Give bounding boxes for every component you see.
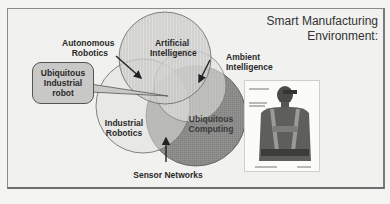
title-line-1: Smart Manufacturing (267, 14, 378, 29)
label-line: Artificial (150, 38, 194, 48)
page-title: Smart Manufacturing Environment: (267, 14, 378, 44)
label-artificial-intelligence: Artificial Intelligence (150, 38, 194, 58)
label-line: Robotics (62, 48, 112, 58)
label-line: Intelligence (226, 62, 276, 72)
label-line: Intelligence (150, 48, 194, 58)
callout-ubiquitous-industrial-robot: Ubiquitous Industrial robot (32, 62, 94, 104)
label-ambient-intelligence: Ambient Intelligence (226, 52, 276, 72)
label-autonomous-robotics: Autonomous Robotics (62, 38, 112, 58)
callout-line: robot (52, 88, 74, 98)
label-line: Robotics (102, 128, 146, 138)
label-line: Ubiquitous (186, 114, 236, 124)
label-line: Autonomous (62, 38, 112, 48)
label-sensor-networks: Sensor Networks (128, 170, 208, 180)
callout-line: Industrial (44, 78, 82, 88)
wearable-person-icon (245, 81, 319, 171)
title-line-2: Environment: (267, 29, 378, 44)
label-line: Ambient (226, 52, 276, 62)
label-industrial-robotics: Industrial Robotics (102, 118, 146, 138)
callout-line: Ubiquitous (41, 68, 85, 78)
label-ubiquitous-computing: Ubiquitous Computing (186, 114, 236, 134)
wearable-computer-photo (244, 80, 320, 172)
label-line: Computing (186, 124, 236, 134)
label-line: Industrial (102, 118, 146, 128)
